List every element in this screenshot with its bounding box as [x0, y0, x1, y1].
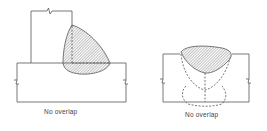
weld-diagram: [0, 0, 267, 131]
break-symbol-icon: [47, 8, 52, 14]
tee-joint-caption: No overlap: [44, 108, 77, 115]
weld-bead: [181, 46, 231, 73]
butt-joint-caption: No overlap: [185, 111, 218, 118]
tee-joint-figure: [14, 8, 128, 102]
weld-bead: [63, 25, 110, 74]
butt-joint-figure: [160, 46, 251, 106]
